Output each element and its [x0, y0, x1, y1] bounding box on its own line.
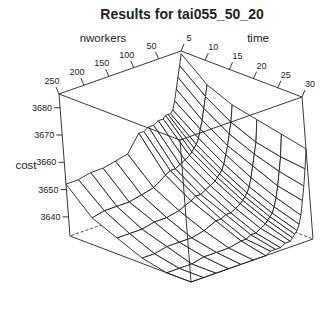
y-tick-label: 5: [186, 33, 191, 43]
surface-plot: Results for tai055_50_20 nworkers time c…: [0, 0, 333, 326]
y-tick-mark: [254, 72, 257, 79]
z-axis-label: cost: [15, 159, 37, 171]
box-edge-top-back-x: [59, 94, 180, 140]
z-tick-label: 3660: [36, 157, 56, 167]
x-tick-mark: [106, 69, 109, 76]
y-tick-label: 25: [281, 70, 291, 80]
y-tick-mark: [278, 81, 281, 88]
y-tick-mark: [181, 44, 184, 51]
box-edge-vertical-left: [59, 94, 70, 236]
y-tick-label: 30: [305, 79, 315, 89]
z-tick-label: 3680: [32, 103, 52, 113]
y-tick-label: 10: [208, 42, 218, 52]
y-tick-mark: [205, 53, 208, 60]
z-tick-label: 3650: [38, 185, 58, 195]
x-tick-label: 150: [94, 58, 109, 68]
y-axis-label: time: [247, 32, 269, 44]
x-tick-label: 50: [147, 41, 157, 51]
x-tick-mark: [81, 78, 84, 85]
x-tick-label: 250: [44, 76, 59, 86]
x-tick-mark: [56, 87, 59, 94]
y-tick-label: 15: [232, 51, 242, 61]
x-tick-mark: [156, 52, 159, 59]
x-tick-label: 200: [69, 67, 84, 77]
chart-title: Results for tai055_50_20: [100, 6, 264, 22]
x-axis-label: nworkers: [80, 32, 127, 44]
z-tick-label: 3640: [40, 212, 60, 222]
x-tick-mark: [131, 61, 134, 68]
z-tick-label: 3670: [34, 130, 54, 140]
y-tick-mark: [302, 90, 305, 97]
y-tick-mark: [229, 62, 232, 69]
x-tick-label: 100: [119, 50, 134, 60]
y-tick-label: 20: [257, 61, 267, 71]
